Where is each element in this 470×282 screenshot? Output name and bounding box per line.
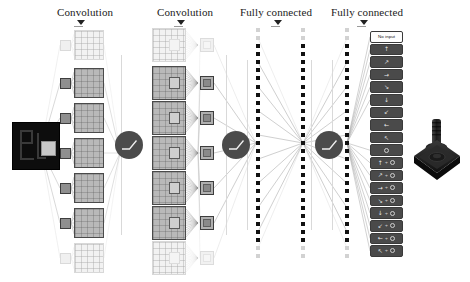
action-button-left-fire[interactable]: ←+ <box>370 233 403 245</box>
fire-button-icon <box>390 198 395 203</box>
fc1-unit-a <box>256 93 260 97</box>
plus-separator: + <box>385 236 388 241</box>
direction-arrow-icon: ↖ <box>378 248 383 254</box>
atari-joystick <box>408 118 466 188</box>
conv1-feature-map <box>74 208 104 238</box>
marker-conv1-icon <box>77 20 85 25</box>
fire-button-icon <box>390 223 395 228</box>
conv2-feature-map <box>152 171 186 205</box>
action-button-no-input[interactable]: No input <box>370 31 403 43</box>
fc1-unit-b <box>301 230 305 234</box>
conv2-kernel-patch <box>169 112 181 124</box>
action-button-down-left-fire[interactable]: ↙+ <box>370 220 403 232</box>
action-button-down-right-fire[interactable]: ↘+ <box>370 195 403 207</box>
conv1-feature-map <box>74 68 104 98</box>
action-button-down[interactable]: ↓ <box>370 94 403 106</box>
plus-separator: + <box>385 198 388 203</box>
fc1-unit-b <box>301 101 305 105</box>
fc1-unit-b <box>301 198 305 202</box>
fc1-unit-b <box>301 93 305 97</box>
receptive-field-patch <box>41 141 56 156</box>
fc2-unit <box>345 157 349 161</box>
fc1-unit-b <box>301 238 305 242</box>
fc1-unit-a <box>256 36 260 40</box>
conv2-output-square <box>200 181 214 195</box>
fc1-unit-a <box>256 198 260 202</box>
conv1-feature-map <box>74 173 104 203</box>
fc2-unit <box>345 206 349 210</box>
fc1-unit-b <box>301 149 305 153</box>
action-button-up-fire[interactable]: ↑+ <box>370 157 403 169</box>
conv2-feature-map <box>152 206 186 240</box>
fc1-unit-a <box>256 206 260 210</box>
fc2-unit <box>345 222 349 226</box>
fire-button-icon <box>390 160 395 165</box>
fire-button-icon <box>384 148 389 153</box>
direction-arrow-icon: ↙ <box>378 223 383 229</box>
action-button-down-left[interactable]: ↙ <box>370 107 403 119</box>
fc2-unit <box>345 52 349 56</box>
fc1-unit-b <box>301 254 305 258</box>
label-fc1: Fully connected <box>240 6 312 18</box>
fire-button-icon <box>390 185 395 190</box>
plus-separator: + <box>385 223 388 228</box>
fc1-unit-b <box>301 68 305 72</box>
conv1-feature-map <box>74 138 104 168</box>
fc1-unit-b <box>301 222 305 226</box>
fc1-unit-a <box>256 173 260 177</box>
fc1-unit-a <box>256 76 260 80</box>
action-button-up-left[interactable]: ↖ <box>370 132 403 144</box>
conv2-kernel-patch <box>169 252 181 264</box>
conv1-kernel-box <box>60 148 71 159</box>
fc1-unit-a <box>256 149 260 153</box>
conv2-feature-map <box>152 136 186 170</box>
direction-arrow-icon: ↖ <box>384 135 389 141</box>
action-button-up-left-fire[interactable]: ↖+ <box>370 245 403 257</box>
fc1-unit-a <box>256 133 260 137</box>
fc2-unit <box>345 76 349 80</box>
direction-arrow-icon: ↙ <box>384 109 389 115</box>
action-button-down-fire[interactable]: ↓+ <box>370 207 403 219</box>
fc1-unit-a <box>256 109 260 113</box>
fc1-unit-b <box>301 133 305 137</box>
fc1-unit-a <box>256 230 260 234</box>
plus-separator: + <box>385 160 388 165</box>
action-button-up-right[interactable]: ↗ <box>370 56 403 68</box>
conv2-output-square <box>200 216 214 230</box>
fc1-unit-b <box>301 206 305 210</box>
action-button-up[interactable]: ↑ <box>370 44 403 56</box>
fc2-unit <box>345 36 349 40</box>
game-screen-frame <box>12 122 60 170</box>
conv2-kernel-patch <box>169 217 181 229</box>
fc2-unit <box>345 44 349 48</box>
conv2-output-square <box>200 146 214 160</box>
conv1-kernel-box <box>60 78 71 89</box>
action-button-up-right-fire[interactable]: ↗+ <box>370 170 403 182</box>
conv2-kernel-patch <box>169 182 181 194</box>
relu-activation-icon-1 <box>115 131 143 159</box>
fc1-unit-a <box>256 214 260 218</box>
action-button-down-right[interactable]: ↘ <box>370 81 403 93</box>
fc1-unit-b <box>301 28 305 32</box>
marker-conv2-stem <box>174 26 183 27</box>
guide-fc1-right <box>311 60 312 230</box>
fc1-unit-b <box>301 246 305 250</box>
action-button-right[interactable]: → <box>370 69 403 81</box>
marker-fc2-icon <box>360 20 368 25</box>
relu-activation-icon-3 <box>315 131 343 159</box>
fc1-unit-b <box>301 125 305 129</box>
conv1-feature-map <box>74 103 104 133</box>
action-button-fire[interactable] <box>370 144 403 156</box>
fc2-unit <box>345 125 349 129</box>
fc1-unit-b <box>301 52 305 56</box>
fc1-unit-b <box>301 181 305 185</box>
conv2-feature-map <box>152 241 186 275</box>
fc1-unit-b <box>301 157 305 161</box>
direction-arrow-icon: ↘ <box>384 84 389 90</box>
fc1-unit-a <box>256 101 260 105</box>
fc1-unit-a <box>256 238 260 242</box>
fire-button-icon <box>390 211 395 216</box>
direction-arrow-icon: → <box>378 185 383 191</box>
action-button-left[interactable]: ← <box>370 119 403 131</box>
action-button-right-fire[interactable]: →+ <box>370 182 403 194</box>
